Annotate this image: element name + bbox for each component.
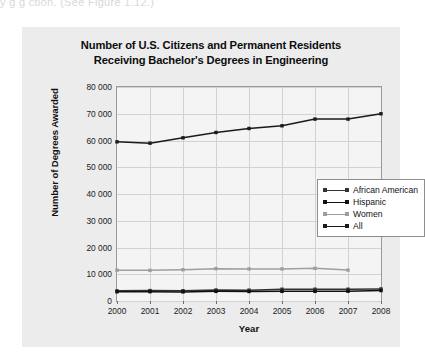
data-point-marker xyxy=(214,131,217,134)
x-axis-tick-mark xyxy=(315,301,316,304)
data-point-marker xyxy=(280,124,283,127)
data-point-marker xyxy=(148,290,151,293)
legend-item: Hispanic xyxy=(323,196,418,208)
x-axis-tick-mark xyxy=(249,301,250,304)
y-axis-tick-label: 40 000 xyxy=(86,189,112,199)
chart-legend: African AmericanHispanicWomenAll xyxy=(317,179,425,237)
y-axis-tick-label: 50 000 xyxy=(86,162,112,172)
data-point-marker xyxy=(214,290,217,293)
y-axis-tick-label: 0 xyxy=(107,296,112,306)
y-axis-tick-label: 60 000 xyxy=(86,136,112,146)
chart-title-line-2: Receiving Bachelor's Degrees in Engineer… xyxy=(22,53,400,68)
x-axis-tick-label: 2004 xyxy=(240,306,259,316)
data-point-marker xyxy=(313,267,316,270)
data-point-marker xyxy=(346,268,349,271)
series-all xyxy=(115,112,382,145)
x-axis-tick-mark xyxy=(117,301,118,304)
x-axis-tick-label: 2005 xyxy=(273,306,292,316)
x-axis-title: Year xyxy=(116,323,382,334)
legend-label: African American xyxy=(353,185,418,195)
data-point-marker xyxy=(181,290,184,293)
data-point-marker xyxy=(247,290,250,293)
y-axis-tick-label: 80 000 xyxy=(86,82,112,92)
legend-swatch xyxy=(323,221,349,231)
figure-panel: Number of U.S. Citizens and Permanent Re… xyxy=(22,27,400,347)
legend-item: All xyxy=(323,220,418,232)
legend-label: All xyxy=(353,221,363,231)
legend-swatch xyxy=(323,185,349,195)
data-point-marker xyxy=(280,290,283,293)
data-point-marker xyxy=(115,269,118,272)
data-point-marker xyxy=(379,112,382,115)
chart-title: Number of U.S. Citizens and Permanent Re… xyxy=(22,38,400,67)
data-point-marker xyxy=(346,290,349,293)
legend-item: African American xyxy=(323,184,418,196)
x-axis-tick-label: 2008 xyxy=(372,306,391,316)
chart-title-line-1: Number of U.S. Citizens and Permanent Re… xyxy=(81,39,341,51)
data-point-marker xyxy=(148,141,151,144)
legend-label: Hispanic xyxy=(353,197,386,207)
legend-swatch xyxy=(323,209,349,219)
x-axis-tick-mark xyxy=(183,301,184,304)
x-axis-tick-mark xyxy=(216,301,217,304)
x-axis-tick-mark xyxy=(150,301,151,304)
x-axis-tick-mark xyxy=(381,301,382,304)
x-axis-tick-label: 2002 xyxy=(174,306,193,316)
x-axis-tick-mark xyxy=(282,301,283,304)
data-point-marker xyxy=(148,269,151,272)
page-top-text-fragment: y g g ction. (See Figure 1.12.) xyxy=(0,0,421,10)
data-point-marker xyxy=(214,267,217,270)
y-axis-title: Number of Degrees Awarded xyxy=(49,73,60,233)
data-point-marker xyxy=(379,289,382,292)
x-axis-tick-label: 2006 xyxy=(306,306,325,316)
legend-item: Women xyxy=(323,208,418,220)
data-point-marker xyxy=(181,268,184,271)
y-axis-tick-label: 30 000 xyxy=(86,216,112,226)
y-axis-tick-label: 10 000 xyxy=(86,269,112,279)
x-axis-tick-label: 2007 xyxy=(339,306,358,316)
x-axis-tick-mark xyxy=(348,301,349,304)
data-point-marker xyxy=(346,117,349,120)
series-women xyxy=(115,267,349,272)
data-point-marker xyxy=(115,290,118,293)
data-point-marker xyxy=(280,267,283,270)
data-point-marker xyxy=(247,267,250,270)
x-axis-tick-label: 2000 xyxy=(108,306,127,316)
x-axis-tick-label: 2001 xyxy=(141,306,160,316)
y-axis-tick-label: 20 000 xyxy=(86,243,112,253)
data-point-marker xyxy=(247,127,250,130)
x-axis-tick-label: 2003 xyxy=(207,306,226,316)
data-point-marker xyxy=(115,140,118,143)
data-point-marker xyxy=(313,117,316,120)
y-axis-tick-label: 70 000 xyxy=(86,109,112,119)
data-point-marker xyxy=(181,136,184,139)
legend-swatch xyxy=(323,197,349,207)
data-point-marker xyxy=(313,290,316,293)
legend-label: Women xyxy=(353,209,382,219)
